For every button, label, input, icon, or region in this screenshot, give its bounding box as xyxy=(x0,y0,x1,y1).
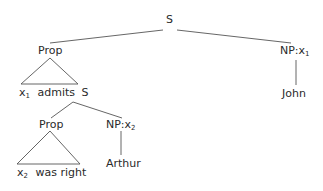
node-np-x1: NP:x1 xyxy=(280,45,310,60)
leaf-john: John xyxy=(282,88,306,100)
var-subscript: 2 xyxy=(24,172,28,180)
np-label: NP: xyxy=(106,118,125,131)
node-s-embedded: S xyxy=(82,86,89,99)
leaf-x2-was-right: x2 was right xyxy=(17,167,86,182)
node-s-root: S xyxy=(166,14,173,26)
verb: admits xyxy=(37,86,75,99)
var-subscript: 1 xyxy=(305,50,309,58)
var-subscript: 1 xyxy=(26,92,30,100)
leaf-arthur: Arthur xyxy=(106,158,141,170)
predicate: was right xyxy=(35,166,86,179)
leaf-x1-admits-s: x1 admits S xyxy=(19,87,89,102)
node-prop: Prop xyxy=(38,45,62,57)
np-label: NP: xyxy=(280,44,299,57)
node-prop-2: Prop xyxy=(39,119,63,131)
var-subscript: 2 xyxy=(131,124,135,132)
node-np-x2: NP:x2 xyxy=(106,119,136,134)
